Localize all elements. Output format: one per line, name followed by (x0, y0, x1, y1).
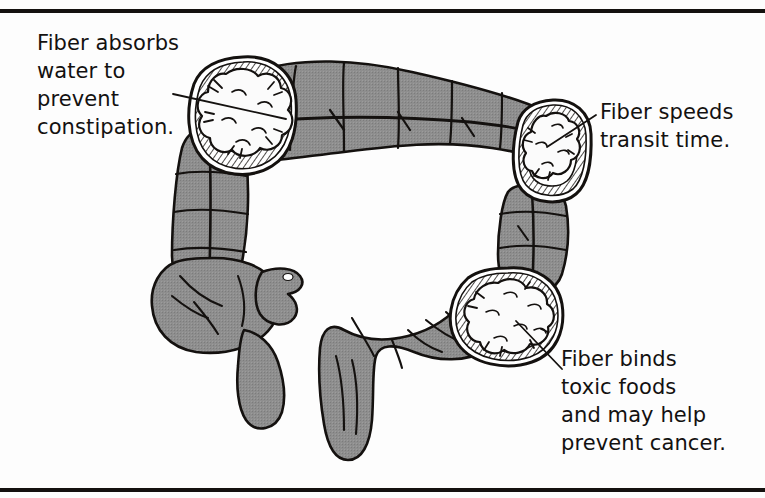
hepatic-flexure-cross-section (189, 57, 297, 175)
appendix (256, 269, 303, 325)
appendix-highlight (283, 274, 293, 281)
splenic-flexure-cross-section (513, 100, 591, 202)
figure-root: Fiber absorbs water to prevent constipat… (0, 0, 765, 498)
sigmoid-colon-left-limb (237, 330, 284, 428)
callout-fiber-binds-toxic-foods: Fiber binds toxic foods and may help pre… (561, 345, 726, 457)
callout-fiber-speeds-transit: Fiber speeds transit time. (600, 98, 734, 154)
cs1-fiber-mass (198, 69, 293, 156)
cs3-fiber-mass (464, 279, 553, 353)
callout-fiber-absorbs-water: Fiber absorbs water to prevent constipat… (37, 29, 179, 141)
